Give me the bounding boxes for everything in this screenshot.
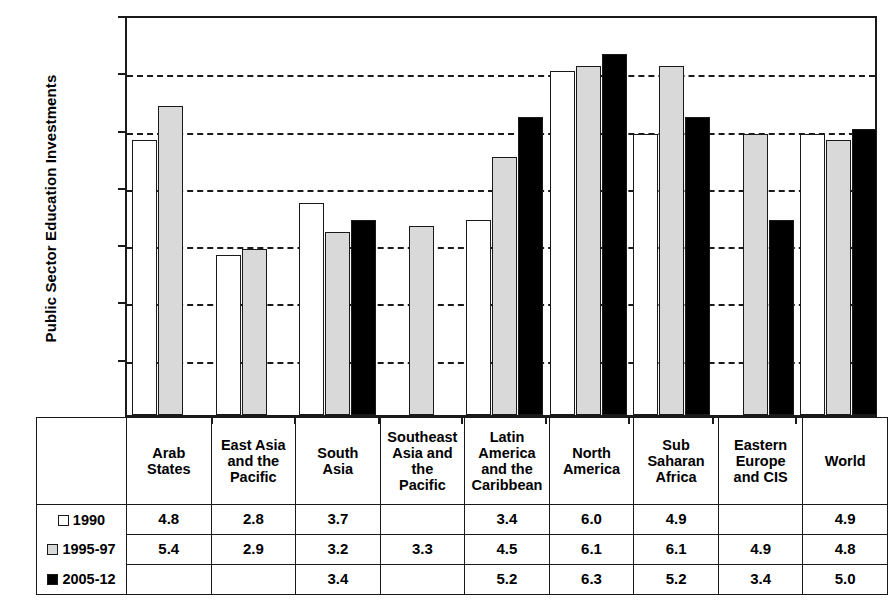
table-cell-value: 3.2 [296,535,381,565]
column-header-line: and CIS [719,469,803,485]
table-cell-value: 3.7 [296,505,381,535]
column-header-line: and the [212,453,296,469]
column-header-line: Southeast [381,429,465,445]
bar [132,140,157,415]
legend-swatch-icon [58,515,69,526]
table-cell-value [718,505,803,535]
bar [659,66,684,415]
table-cell-value: 3.3 [380,535,465,565]
column-header-line: Pacific [381,477,465,493]
table-cell-value: 3.4 [296,565,381,595]
bar [685,117,710,415]
table-cell-value [127,565,212,595]
bar [158,106,183,415]
table-cell-value: 5.2 [465,565,550,595]
table-cell-value: 3.4 [465,505,550,535]
legend-item-1990[interactable]: 1990 [37,505,127,535]
table-cell-value: 4.9 [634,505,719,535]
data-table: ArabStatesEast Asiaand thePacificSouthAs… [36,417,888,595]
legend-item-2005-12[interactable]: 2005-12 [37,565,127,595]
table-cell-value [211,565,296,595]
table-cell-value: 4.8 [803,535,888,565]
column-header-line: South [296,445,380,461]
bar [800,134,825,415]
table-row: 19904.82.83.73.46.04.94.9 [37,505,888,535]
column-header-line: Latin [465,429,549,445]
bar [602,54,627,415]
bar [351,220,376,415]
bar [769,220,794,415]
table-cell-value: 6.1 [549,535,634,565]
bar [743,134,768,415]
table-cell-value: 5.2 [634,565,719,595]
table-cell-value: 3.4 [718,565,803,595]
y-axis-title: Public Sector Education Investments [42,9,59,409]
legend-swatch-icon [47,574,58,585]
table-column-header: NorthAmerica [549,418,634,505]
column-header-line: Arab [127,445,211,461]
table-row: 1995-975.42.93.23.34.56.16.14.94.8 [37,535,888,565]
data-table-wrapper: ArabStatesEast Asiaand thePacificSouthAs… [36,417,877,593]
legend-label: 1995-97 [62,541,115,557]
table-cell-value [380,505,465,535]
bar [216,255,241,415]
column-header-line: Sub [634,437,718,453]
column-header-line: East Asia [212,437,296,453]
column-header-line: America [465,445,549,461]
bar [852,129,877,415]
table-header-row: ArabStatesEast Asiaand thePacificSouthAs… [37,418,888,505]
table-cell-value: 4.9 [803,505,888,535]
table-cell-value: 4.5 [465,535,550,565]
column-header-line: and the [465,461,549,477]
table-row: 2005-123.45.26.35.23.45.0 [37,565,888,595]
column-header-line: North [550,445,634,461]
column-header-line: Pacific [212,469,296,485]
table-cell-value: 2.9 [211,535,296,565]
column-header-line: Eastern [719,437,803,453]
table-column-header: SouthAsia [296,418,381,505]
column-header-line: World [803,453,887,469]
column-header-line: Saharan [634,453,718,469]
column-header-line: Asia and [381,445,465,461]
table-cell-value: 4.9 [718,535,803,565]
table-column-header: East Asiaand thePacific [211,418,296,505]
plot-area [125,16,877,417]
table-column-header: SoutheastAsia andthePacific [380,418,465,505]
bar [466,220,491,415]
bar [242,249,267,415]
bar [826,140,851,415]
bar [409,226,434,415]
legend-swatch-icon [47,544,58,555]
table-column-header: SubSaharanAfrica [634,418,719,505]
legend-label: 1990 [73,512,105,528]
gridline [127,75,875,77]
table-column-header: ArabStates [127,418,212,505]
table-cell-value: 6.0 [549,505,634,535]
bar [518,117,543,415]
table-column-header: LatinAmericaand theCaribbean [465,418,550,505]
column-header-line: States [127,461,211,477]
legend-item-1995-97[interactable]: 1995-97 [37,535,127,565]
table-column-header: World [803,418,888,505]
bar [492,157,517,415]
column-header-line: Europe [719,453,803,469]
legend-label: 2005-12 [62,571,115,587]
column-header-line: Caribbean [465,477,549,493]
table-corner-blank [37,418,127,505]
bar [550,71,575,415]
table-cell-value: 5.0 [803,565,888,595]
table-column-header: EasternEuropeand CIS [718,418,803,505]
bar [299,203,324,415]
table-cell-value: 6.3 [549,565,634,595]
bar [633,134,658,415]
bar [576,66,601,415]
column-header-line: Africa [634,469,718,485]
table-cell-value: 4.8 [127,505,212,535]
column-header-line: the [381,461,465,477]
bar [325,232,350,415]
table-cell-value [380,565,465,595]
table-cell-value: 6.1 [634,535,719,565]
column-header-line: Asia [296,461,380,477]
column-header-line: America [550,461,634,477]
